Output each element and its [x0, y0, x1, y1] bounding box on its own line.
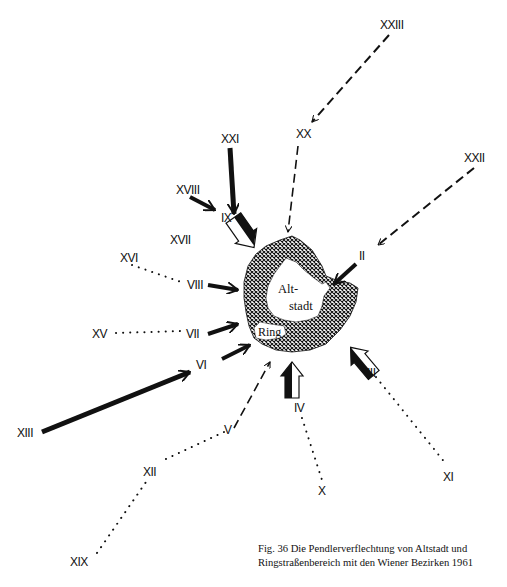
commuter-diagram: Alt- stadt Ring	[0, 0, 507, 587]
dotted-xii-v	[166, 432, 224, 459]
ring-label: Ring	[258, 325, 281, 339]
center-area: Alt- stadt Ring	[244, 236, 358, 352]
arrow-viii-center	[208, 285, 238, 290]
label-ix: IX	[221, 211, 232, 225]
label-vii: VII	[186, 327, 199, 341]
label-v: V	[224, 423, 232, 437]
arrow-v-center	[234, 362, 270, 428]
dotted-xxiii-xii	[97, 482, 146, 553]
altstadt-label-1: Alt-	[278, 282, 298, 296]
label-xiii: XIII	[17, 426, 33, 440]
label-viii: VIII	[187, 278, 203, 292]
label-xxii: XXII	[464, 151, 485, 165]
label-x: X	[318, 484, 326, 498]
label-xx: XX	[296, 127, 312, 141]
block-arrow-iii	[342, 340, 382, 382]
dotted-xv-vii	[116, 331, 184, 333]
arrow-xviii-ix	[190, 197, 215, 210]
block-arrow-iv	[281, 362, 303, 398]
dashed-arrows	[234, 35, 474, 428]
label-xxiii: XIX	[70, 555, 88, 569]
arrow-xxii-ii	[378, 168, 474, 245]
label-xii: XII	[143, 465, 156, 479]
arrow-ii-center	[334, 264, 356, 284]
label-iii: III	[367, 366, 376, 380]
caption-line-2: Ringstraßenbereich mit den Wiener Bezirk…	[258, 556, 503, 570]
label-iv: IV	[294, 401, 305, 415]
arrow-xx-center	[288, 146, 298, 232]
label-xv: XV	[92, 327, 108, 341]
label-xxi: XXIII	[380, 18, 404, 32]
label-ii: II	[359, 249, 365, 263]
label-xvii: XVII	[170, 233, 191, 247]
label-xviii: XVIII	[176, 183, 200, 197]
label-vi: VI	[196, 358, 207, 372]
arrow-vii-center	[208, 324, 238, 334]
figure-caption: Fig. 36 Die Pendlerverflechtung von Alts…	[258, 542, 503, 570]
arrow-vi-center	[222, 345, 250, 359]
arrow-xxi-xx	[312, 35, 389, 122]
dotted-x-iv	[302, 418, 322, 480]
arrow-xix-ix	[230, 148, 234, 214]
label-xix: XXI	[221, 132, 239, 146]
arrow-xiii-vi	[42, 372, 190, 432]
caption-line-1: Fig. 36 Die Pendlerverflechtung von Alts…	[258, 542, 503, 556]
altstadt-label-2: stadt	[289, 299, 313, 313]
dotted-xi-iii	[376, 377, 446, 464]
label-xvi: XVI	[120, 251, 138, 265]
dotted-xvi-viii	[132, 265, 184, 283]
label-xi: XI	[443, 470, 454, 484]
